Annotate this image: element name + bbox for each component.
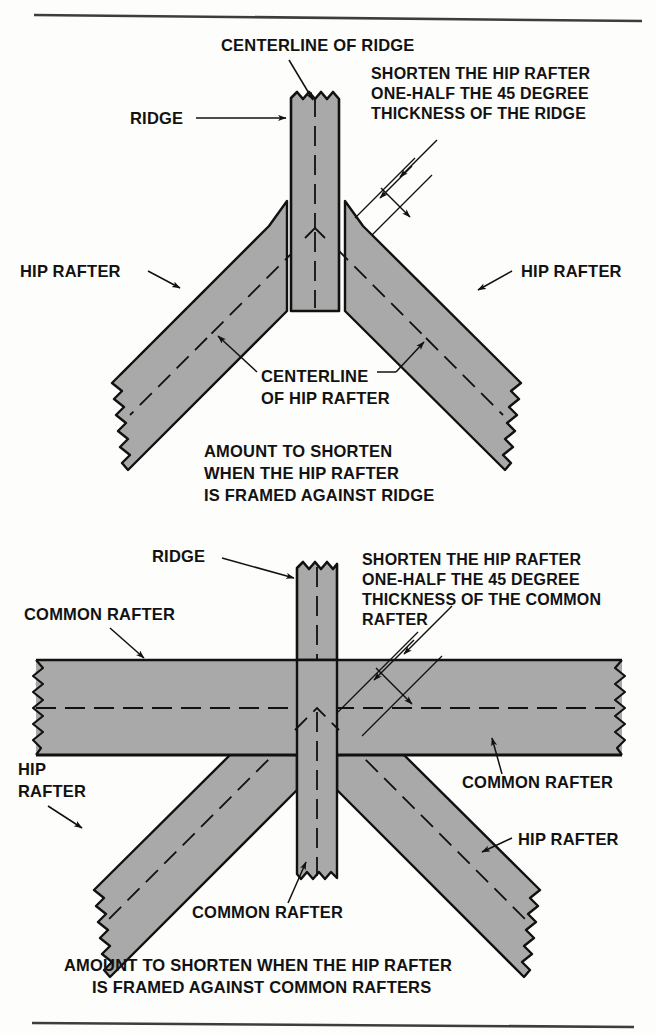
note-b-line-3: THICKNESS OF THE COMMON xyxy=(362,591,601,608)
ridge-board-top xyxy=(291,92,339,311)
caption-top-line-3: IS FRAMED AGAINST RIDGE xyxy=(204,486,434,504)
note-line-3: THICKNESS OF THE RIDGE xyxy=(371,105,586,122)
common-rafter-vertical-bottom xyxy=(297,660,337,879)
note-line-1: SHORTEN THE HIP RAFTER xyxy=(371,65,590,82)
hip-rafter-left-b-line-1: HIP xyxy=(18,760,46,778)
common-rafter-left-text: COMMON RAFTER xyxy=(24,605,175,623)
figure-page: CENTERLINE OF RIDGE RIDGE SHORTEN THE HI… xyxy=(0,0,656,1033)
note-b-line-2: ONE-HALF THE 45 DEGREE xyxy=(362,571,580,588)
caption-bottom-line-2: IS FRAMED AGAINST COMMON RAFTERS xyxy=(92,978,431,996)
hip-rafter-right-text: HIP RAFTER xyxy=(521,262,622,280)
caption-top-line-1: AMOUNT TO SHORTEN xyxy=(204,442,392,460)
ridge-board-bottom xyxy=(297,562,337,660)
centerline-hip-line-1: CENTERLINE xyxy=(261,367,368,385)
hip-rafter-right-b-text: HIP RAFTER xyxy=(518,830,619,848)
common-rafter-right-text: COMMON RAFTER xyxy=(462,773,613,791)
centerline-of-ridge-text: CENTERLINE OF RIDGE xyxy=(221,36,415,54)
caption-bottom-line-1: AMOUNT TO SHORTEN WHEN THE HIP RAFTER xyxy=(64,956,452,974)
hip-rafter-left-b-line-2: RAFTER xyxy=(18,782,86,800)
note-b-line-4: RAFTER xyxy=(362,611,428,628)
rafter-framing-figure: CENTERLINE OF RIDGE RIDGE SHORTEN THE HI… xyxy=(0,0,656,1033)
hip-rafter-left-text: HIP RAFTER xyxy=(20,262,121,280)
common-rafter-bottom-text: COMMON RAFTER xyxy=(192,903,343,921)
ridge-bottom-text: RIDGE xyxy=(152,547,205,565)
note-b-line-1: SHORTEN THE HIP RAFTER xyxy=(362,551,581,568)
note-line-2: ONE-HALF THE 45 DEGREE xyxy=(371,85,589,102)
caption-top-line-2: WHEN THE HIP RAFTER xyxy=(204,464,399,482)
centerline-hip-line-2: OF HIP RAFTER xyxy=(261,389,390,407)
note-shorten-ridge: SHORTEN THE HIP RAFTER ONE-HALF THE 45 D… xyxy=(371,65,590,122)
ridge-text: RIDGE xyxy=(130,109,183,127)
